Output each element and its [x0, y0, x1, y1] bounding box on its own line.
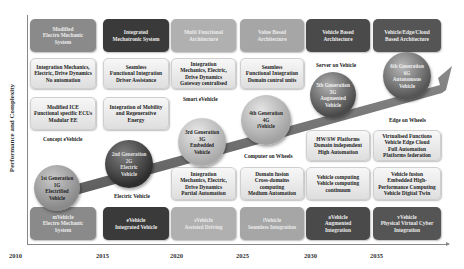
generation-2-circle: 2nd Generation 2G Electric Vehicle: [105, 140, 153, 188]
generation-5-circle: 5th Generation 5G Augmented Vehicle: [310, 72, 356, 118]
vehicle-evolution-diagram: Performance and Complexity 2010 2015 202…: [0, 0, 464, 269]
generation-1-circle: 1st Generation 1G Electrified Vehicle: [34, 165, 80, 211]
stage-label-electric: Electric Vehicle: [114, 193, 150, 199]
generation-4-circle: 4th Generation 4G iVehicle: [241, 95, 291, 145]
progress-arrow-icon: [0, 0, 464, 269]
stage-label-computer: Computer on Wheels: [244, 153, 293, 159]
stage-label-server: Server on Vehicle: [316, 62, 356, 68]
stage-label-edge: Edge on Wheels: [389, 117, 426, 123]
stage-label-smart: Smart eVehicle: [183, 96, 218, 102]
generation-3-circle: 3rd Generation 3G Embedded Vehicle: [178, 118, 226, 166]
stage-label-concept: Concept eVehicle: [43, 136, 82, 142]
generation-6-circle: 6th Generation 6G Autonomous Vehicle: [383, 52, 431, 100]
